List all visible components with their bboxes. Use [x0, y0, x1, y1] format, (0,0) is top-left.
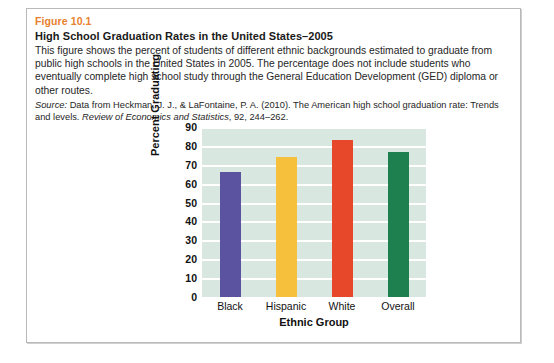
figure-box: Figure 10.1 High School Graduation Rates… — [26, 8, 521, 343]
bar-hispanic — [276, 157, 297, 297]
y-axis-title: Percent Graduating — [149, 45, 163, 165]
y-tick-label: 0 — [173, 292, 197, 302]
x-tick-label: Overall — [370, 299, 426, 313]
x-axis-title: Ethnic Group — [202, 316, 426, 328]
bar-slot — [370, 127, 426, 297]
bar-black — [220, 172, 241, 297]
y-tick-label: 20 — [173, 254, 197, 264]
x-tick-label: Black — [202, 299, 258, 313]
bar-slot — [202, 127, 258, 297]
x-tick-label: White — [314, 299, 370, 313]
plot-area — [202, 127, 426, 297]
figure-caption: Figure 10.1 High School Graduation Rates… — [35, 15, 514, 123]
y-tick-label: 40 — [173, 216, 197, 226]
y-tick-label: 50 — [173, 198, 197, 208]
bar-overall — [388, 152, 409, 297]
y-tick-label: 80 — [173, 141, 197, 151]
x-axis-tick-labels: BlackHispanicWhiteOverall — [202, 299, 426, 313]
figure-title: High School Graduation Rates in the Unit… — [35, 29, 514, 43]
y-tick-label: 30 — [173, 235, 197, 245]
bar-slot — [258, 127, 314, 297]
y-tick-label: 60 — [173, 179, 197, 189]
figure-number: Figure 10.1 — [35, 15, 514, 28]
y-axis-tick-labels: 9080706050403020100 — [173, 127, 197, 297]
bar-slot — [314, 127, 370, 297]
figure-description: This figure shows the percent of student… — [35, 44, 514, 97]
source-text-part-2: , 92, 244–262. — [229, 112, 288, 122]
figure-source: Source: Data from Heckman, J. J., & LaFo… — [35, 99, 514, 123]
bar-white — [332, 140, 353, 297]
y-tick-label: 90 — [173, 122, 197, 132]
source-label: Source: — [35, 100, 67, 110]
y-tick-label: 70 — [173, 160, 197, 170]
bar-series — [202, 127, 426, 297]
bar-chart: Percent Graduating 9080706050403020100 B… — [155, 127, 445, 339]
y-tick-label: 10 — [173, 273, 197, 283]
x-tick-label: Hispanic — [258, 299, 314, 313]
